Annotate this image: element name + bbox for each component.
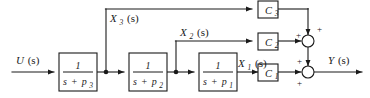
output-var: Y	[328, 54, 336, 66]
label-input-us: U (s)	[16, 54, 40, 67]
x2-sub: 2	[189, 32, 193, 41]
gain-c1-var: C	[265, 68, 273, 79]
block-gain-c2[interactable]: C 2	[258, 33, 279, 50]
x1-arg: (s)	[255, 57, 267, 70]
gain-c1-sub: 1	[275, 72, 279, 81]
block-transfer-p3-den-s: s	[63, 76, 67, 87]
block-diagram-svg: 1 s + p 3 1 s + p 2 1	[0, 0, 370, 98]
gain-c2-sub: 2	[275, 41, 279, 50]
sum-junction-lower-circle	[302, 66, 314, 78]
block-transfer-p3-den-plus: +	[72, 76, 78, 87]
sum-junction-upper[interactable]: + +	[296, 24, 322, 47]
input-arg: (s)	[28, 54, 40, 67]
sum-upper-sign-top: +	[317, 24, 322, 34]
sum-lower-sign-top: +	[297, 56, 302, 66]
sum-junction-upper-circle	[302, 35, 314, 47]
block-transfer-p1-numerator: 1	[216, 60, 221, 71]
x3-var: X	[109, 12, 118, 24]
output-arg: (s)	[338, 54, 350, 67]
x1-var: X	[237, 57, 246, 69]
block-transfer-p2-den-p: p	[151, 76, 157, 87]
x3-arg: (s)	[127, 12, 139, 25]
block-transfer-p1-den-p: p	[221, 76, 227, 87]
block-transfer-p3-numerator: 1	[76, 60, 81, 71]
input-var: U	[16, 54, 25, 66]
label-state-x3: X 3 (s)	[109, 12, 139, 27]
block-transfer-p3-den-sub: 3	[88, 81, 93, 90]
block-transfer-p2-den-sub: 2	[159, 81, 163, 90]
label-output-ys: Y (s)	[328, 54, 350, 67]
block-transfer-p2[interactable]: 1 s + p 2	[129, 53, 167, 91]
block-transfer-p3[interactable]: 1 s + p 3	[59, 53, 97, 91]
block-transfer-p2-numerator: 1	[146, 60, 151, 71]
x1-sub: 1	[247, 63, 251, 72]
gain-c3-var: C	[265, 5, 273, 16]
block-transfer-p2-den-plus: +	[142, 76, 148, 87]
x3-sub: 3	[118, 18, 123, 27]
x2-arg: (s)	[197, 26, 209, 39]
block-transfer-p2-den-s: s	[133, 76, 137, 87]
block-transfer-p3-den-p: p	[81, 76, 87, 87]
sum-lower-sign-bottom: +	[297, 78, 302, 88]
label-state-x2: X 2 (s)	[179, 26, 209, 41]
gain-c2-var: C	[265, 37, 273, 48]
block-transfer-p1[interactable]: 1 s + p 1	[199, 53, 237, 91]
block-transfer-p1-den-plus: +	[212, 76, 218, 87]
x2-var: X	[179, 26, 188, 38]
branch-gain-c3-to-sum-upper	[278, 8, 308, 35]
block-transfer-p1-den-s: s	[203, 76, 207, 87]
sum-upper-sign-left: +	[296, 30, 301, 40]
block-diagram-canvas: 1 s + p 3 1 s + p 2 1	[0, 0, 370, 98]
block-gain-c3[interactable]: C 3	[258, 1, 279, 18]
gain-c3-sub: 3	[274, 9, 279, 18]
block-transfer-p1-den-sub: 1	[229, 81, 233, 90]
